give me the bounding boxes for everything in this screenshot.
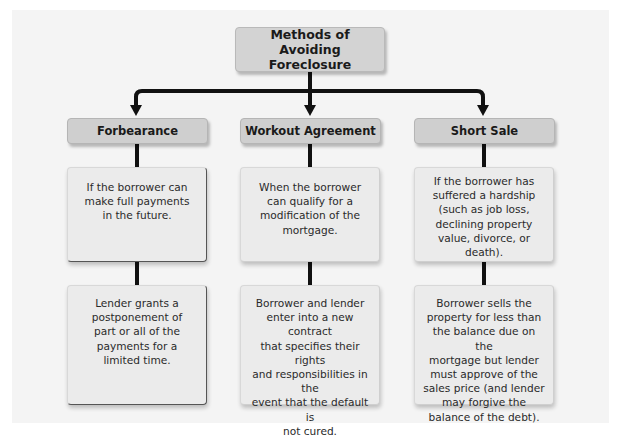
condition-text: When the borrower can qualify for a modi… [259,180,361,237]
result-text: Lender grants a postponement of part or … [92,296,183,367]
result-text: Borrower and lender enter into a new con… [249,296,371,438]
arrow-down-icon [477,105,489,116]
workout-condition-box: When the borrower can qualify for a modi… [240,167,380,262]
diagram-title-line1: Methods of [236,27,384,42]
arrow-down-icon [304,105,316,116]
forbearance-result-box: Lender grants a postponement of part or … [67,285,207,405]
diagram-title-box: Methods of Avoiding Foreclosure [235,27,385,72]
header-workout-agreement: Workout Agreement [240,118,381,144]
header-label: Workout Agreement [245,124,376,138]
header-label: Forbearance [97,124,178,138]
result-text: Borrower sells the property for less tha… [423,296,545,424]
diagram-title-line2: Avoiding Foreclosure [236,42,384,72]
short-sale-condition-box: If the borrower has suffered a hardship … [414,167,554,262]
header-short-sale: Short Sale [414,118,555,144]
arrow-down-icon [130,105,142,116]
header-forbearance: Forbearance [67,118,208,144]
condition-text: If the borrower has suffered a hardship … [433,174,536,259]
header-label: Short Sale [451,124,518,138]
forbearance-condition-box: If the borrower can make full payments i… [67,167,207,262]
short-sale-result-box: Borrower sells the property for less tha… [414,285,554,405]
condition-text: If the borrower can make full payments i… [85,180,190,223]
workout-result-box: Borrower and lender enter into a new con… [240,285,380,405]
